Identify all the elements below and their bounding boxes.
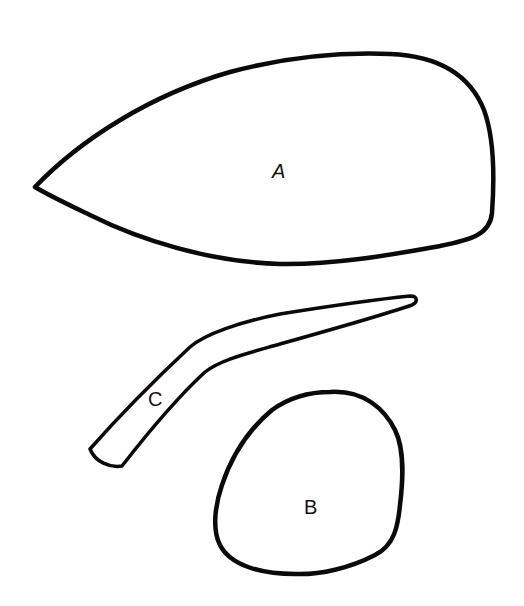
shape-c-label: C bbox=[148, 389, 162, 409]
shape-a-label: A bbox=[272, 161, 285, 181]
shapes-diagram bbox=[0, 0, 524, 606]
shape-b-label: B bbox=[304, 497, 317, 517]
shape-a-outline bbox=[35, 54, 493, 265]
shape-b-outline bbox=[215, 392, 402, 574]
shape-c-outline bbox=[90, 296, 416, 466]
